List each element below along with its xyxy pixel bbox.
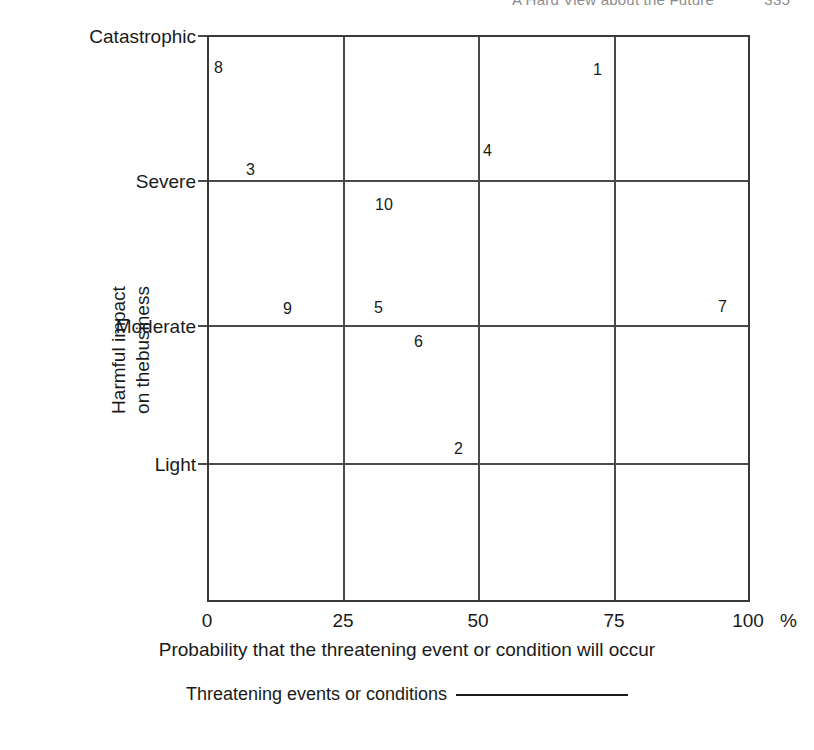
gridline-horizontal-severe	[209, 180, 748, 182]
y-axis-title: Harmful impact on thebusiness	[36, 255, 226, 445]
x-axis-title: Probability that the threatening event o…	[0, 639, 814, 661]
figure-caption: Threatening events or conditions	[0, 684, 814, 705]
y-axis-title-line2: on thebusiness	[131, 286, 155, 414]
y-tick-label-severe: Severe	[18, 172, 196, 191]
data-point-1: 1	[593, 62, 602, 78]
y-tick-light	[198, 463, 207, 465]
y-axis-title-line1: Harmful impact	[107, 286, 131, 414]
risk-matrix-figure: 8 1 4 3 10 9 5 7 6 2 Catastrophic Severe…	[0, 0, 814, 750]
y-tick-label-catastrophic: Catastrophic	[18, 27, 196, 46]
gridline-vertical-75	[614, 37, 616, 600]
x-axis-unit: %	[780, 611, 797, 630]
gridline-vertical-50	[478, 37, 480, 600]
data-point-4: 4	[483, 143, 492, 159]
x-tick-label-25: 25	[313, 611, 373, 630]
figure-caption-text: Threatening events or conditions	[186, 684, 447, 704]
caption-blank-rule	[456, 694, 628, 696]
gridline-vertical-25	[343, 37, 345, 600]
data-point-8: 8	[214, 60, 223, 76]
data-point-2: 2	[454, 441, 463, 457]
data-point-6: 6	[414, 334, 423, 350]
data-point-9: 9	[283, 301, 292, 317]
x-tick-label-75: 75	[584, 611, 644, 630]
x-tick-label-0: 0	[177, 611, 237, 630]
plot-area	[207, 35, 750, 602]
y-tick-label-light: Light	[18, 455, 196, 474]
data-point-5: 5	[374, 300, 383, 316]
data-point-7: 7	[718, 299, 727, 315]
gridline-horizontal-moderate	[209, 325, 748, 327]
x-tick-label-50: 50	[448, 611, 508, 630]
y-tick-catastrophic	[198, 35, 207, 37]
y-tick-severe	[198, 180, 207, 182]
gridline-horizontal-light	[209, 463, 748, 465]
x-tick-label-100: 100	[718, 611, 778, 630]
data-point-10: 10	[375, 197, 393, 213]
data-point-3: 3	[246, 162, 255, 178]
